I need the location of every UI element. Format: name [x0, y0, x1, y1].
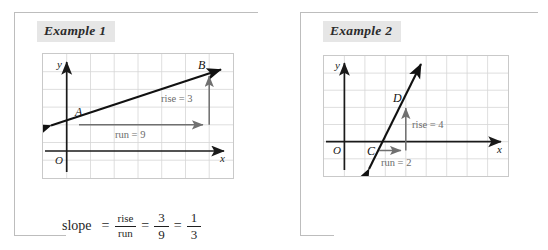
grid-lines — [43, 54, 233, 178]
rise-label: rise = 3 — [161, 93, 193, 104]
value-fraction: 3 9 — [154, 211, 169, 241]
example-2-title: Example 2 — [323, 21, 401, 42]
fraction-numerator: rise — [114, 213, 136, 226]
graph-2-canvas: y x O C D rise = 4 run = 2 — [324, 56, 508, 176]
origin-label: O — [55, 154, 63, 166]
result-numerator: 1 — [187, 211, 202, 226]
example-1-equation: slope = rise run = 3 9 = 1 3 — [62, 211, 201, 241]
graph-1-canvas: y x O A B rise = 3 run = 9 — [43, 54, 233, 178]
equals-sign-3: = — [174, 218, 182, 234]
run-label: run = 9 — [115, 129, 145, 140]
example-2-graph: y x O C D rise = 4 run = 2 — [323, 55, 509, 177]
equals-sign-1: = — [102, 218, 110, 234]
rise-label: rise = 4 — [412, 119, 444, 130]
y-axis-label: y — [334, 59, 340, 71]
point-label-b: B — [198, 58, 206, 72]
point-label-a: A — [74, 105, 83, 119]
y-axis-label: y — [56, 58, 62, 70]
rise-over-run-fraction: rise run — [114, 213, 136, 239]
point-label-c: C — [367, 144, 376, 158]
value-denominator: 9 — [154, 226, 169, 242]
fraction-denominator: run — [115, 226, 136, 240]
example-1-graph: y x O A B rise = 3 run = 9 — [42, 53, 234, 179]
run-label: run = 2 — [381, 157, 411, 168]
result-fraction: 1 3 — [187, 211, 202, 241]
origin-label: O — [333, 144, 341, 156]
point-label-d: D — [392, 91, 402, 105]
example-panel-2: Example 2 — [300, 12, 538, 236]
example-panel-1: Example 1 — [14, 12, 258, 236]
slope-line — [369, 64, 421, 169]
equals-sign-2: = — [141, 218, 149, 234]
value-numerator: 3 — [154, 211, 169, 226]
result-denominator: 3 — [187, 226, 202, 242]
x-axis-label: x — [496, 143, 502, 155]
x-axis-label: x — [219, 152, 225, 164]
example-1-title: Example 1 — [37, 21, 115, 42]
equation-word: slope — [62, 218, 92, 234]
